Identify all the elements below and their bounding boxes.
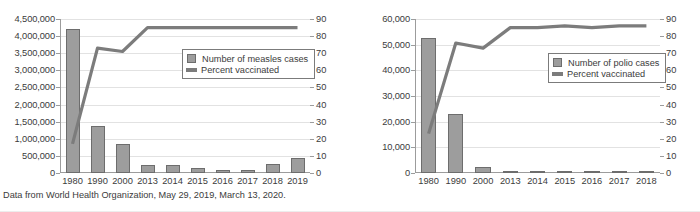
y-axis-tick xyxy=(411,173,415,174)
y2-axis-tick xyxy=(660,19,664,20)
y2-axis-tick xyxy=(660,36,664,37)
x-axis-tick-label: 2017 xyxy=(237,176,258,186)
y-axis-tick-label: 3,000,000 xyxy=(15,65,55,75)
y-axis-tick-label: 4,500,000 xyxy=(15,14,55,24)
y2-axis-tick xyxy=(660,122,664,123)
legend-row-bars: Number of polio cases xyxy=(553,57,659,68)
x-axis-tick-label: 2018 xyxy=(262,176,283,186)
y2-axis-tick-label: 70 xyxy=(316,48,326,58)
source-footnote: Data from World Health Organization, May… xyxy=(3,190,286,200)
legend-label-line: Percent vaccinated xyxy=(201,65,279,75)
y-axis-tick-label: 1,000,000 xyxy=(15,134,55,144)
measles-chart-panel: 0500,0001,000,0001,500,0002,000,0002,500… xyxy=(0,0,350,212)
y-axis-tick-label: 0 xyxy=(405,168,410,178)
measles-plot-area: 0500,0001,000,0001,500,0002,000,0002,500… xyxy=(60,19,310,173)
y-axis-tick-label: 10,000 xyxy=(382,142,410,152)
y-axis-tick-label: 0 xyxy=(50,168,55,178)
y2-axis-tick-label: 50 xyxy=(666,82,676,92)
x-axis-tick-label: 2013 xyxy=(137,176,158,186)
y-axis-tick xyxy=(56,173,60,174)
legend-label-line: Percent vaccinated xyxy=(567,69,645,79)
y2-axis-tick-label: 80 xyxy=(316,31,326,41)
y2-axis-tick-label: 30 xyxy=(316,117,326,127)
polio-plot-area: 010,00020,00030,00040,00050,00060,000010… xyxy=(415,19,660,173)
y2-axis-tick-label: 80 xyxy=(666,31,676,41)
x-axis-tick-label: 1990 xyxy=(87,176,108,186)
legend-row-line: Percent vaccinated xyxy=(187,64,308,75)
y-axis-tick-label: 30,000 xyxy=(382,91,410,101)
y-axis-tick-label: 20,000 xyxy=(382,117,410,127)
polio-percent-line xyxy=(415,19,660,173)
y2-axis-tick-label: 10 xyxy=(666,151,676,161)
bar-swatch-icon xyxy=(187,54,196,63)
y2-axis-tick-label: 60 xyxy=(316,65,326,75)
y2-axis-tick-label: 40 xyxy=(666,100,676,110)
x-axis-tick-label: 2000 xyxy=(473,176,494,186)
page-edge-divider xyxy=(0,211,700,212)
measles-percent-line xyxy=(60,19,310,173)
y2-axis-tick-label: 30 xyxy=(666,117,676,127)
y-axis-tick-label: 50,000 xyxy=(382,40,410,50)
x-axis-tick-label: 2016 xyxy=(212,176,233,186)
x-axis-tick-label: 1980 xyxy=(418,176,439,186)
y-axis-tick-label: 500,000 xyxy=(22,151,55,161)
y2-axis-tick-label: 0 xyxy=(316,168,321,178)
legend-row-line: Percent vaccinated xyxy=(553,68,659,79)
x-axis-tick-label: 2017 xyxy=(609,176,630,186)
y2-axis-tick-label: 20 xyxy=(666,134,676,144)
y2-axis-tick xyxy=(310,156,314,157)
y2-axis-tick-label: 60 xyxy=(666,65,676,75)
y2-axis-tick-label: 10 xyxy=(316,151,326,161)
y2-axis-tick-label: 20 xyxy=(316,134,326,144)
polio-legend: Number of polio cases Percent vaccinated xyxy=(548,53,666,83)
measles-legend: Number of measles cases Percent vaccinat… xyxy=(182,49,315,79)
y2-axis-tick xyxy=(660,87,664,88)
y2-axis-tick xyxy=(660,156,664,157)
x-axis-tick-label: 2019 xyxy=(287,176,308,186)
x-axis-tick-label: 2013 xyxy=(500,176,521,186)
y2-axis-tick xyxy=(660,173,664,174)
x-axis-tick-label: 2015 xyxy=(187,176,208,186)
legend-label-bars: Number of measles cases xyxy=(202,54,308,64)
x-axis-tick-label: 1980 xyxy=(62,176,83,186)
line-swatch-icon xyxy=(552,72,563,76)
y2-axis-tick xyxy=(310,122,314,123)
bar-swatch-icon xyxy=(553,58,562,67)
legend-row-bars: Number of measles cases xyxy=(187,53,308,64)
y-axis-tick-label: 1,500,000 xyxy=(15,117,55,127)
x-axis-tick-label: 2014 xyxy=(162,176,183,186)
y2-axis-tick xyxy=(310,139,314,140)
y-axis-tick-label: 3,500,000 xyxy=(15,48,55,58)
y2-axis-tick-label: 0 xyxy=(666,168,671,178)
x-axis-tick-label: 2000 xyxy=(112,176,133,186)
polio-chart-panel: 010,00020,00030,00040,00050,00060,000010… xyxy=(350,0,700,212)
y2-axis-tick xyxy=(660,139,664,140)
y2-axis-tick xyxy=(660,105,664,106)
two-chart-figure: 0500,0001,000,0001,500,0002,000,0002,500… xyxy=(0,0,700,212)
y-axis-tick-label: 60,000 xyxy=(382,14,410,24)
x-axis-tick-label: 2015 xyxy=(554,176,575,186)
y2-axis-tick xyxy=(310,19,314,20)
x-axis-tick-label: 2016 xyxy=(582,176,603,186)
x-axis-tick-label: 2018 xyxy=(636,176,657,186)
y2-axis-tick xyxy=(310,105,314,106)
y2-axis-tick xyxy=(310,173,314,174)
y2-axis-tick-label: 90 xyxy=(666,14,676,24)
y2-axis-tick-label: 70 xyxy=(666,48,676,58)
y-axis-tick-label: 40,000 xyxy=(382,65,410,75)
y-axis-tick-label: 4,000,000 xyxy=(15,31,55,41)
line-swatch-icon xyxy=(186,68,197,72)
y-axis-tick-label: 2,500,000 xyxy=(15,82,55,92)
y2-axis-tick xyxy=(310,87,314,88)
y2-axis-tick-label: 50 xyxy=(316,82,326,92)
x-axis-tick-label: 2014 xyxy=(527,176,548,186)
y2-axis-tick xyxy=(310,36,314,37)
x-axis-tick-label: 1990 xyxy=(445,176,466,186)
legend-label-bars: Number of polio cases xyxy=(568,58,659,68)
y-axis-tick-label: 2,000,000 xyxy=(15,100,55,110)
y2-axis-tick-label: 40 xyxy=(316,100,326,110)
y2-axis-tick-label: 90 xyxy=(316,14,326,24)
